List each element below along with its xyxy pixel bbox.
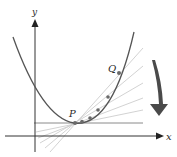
- curve-points: [73, 71, 121, 125]
- curve-point: [96, 108, 100, 112]
- point-q: [117, 71, 121, 75]
- y-axis-arrow-icon: [32, 19, 39, 27]
- point-p-label: P: [68, 108, 76, 119]
- curve-point: [106, 95, 110, 99]
- x-axis-arrow-icon: [156, 133, 164, 140]
- y-axis-label: y: [31, 7, 38, 17]
- curve-point: [88, 116, 92, 120]
- x-axis-label: x: [166, 131, 172, 142]
- down-arrow-icon: [150, 60, 168, 116]
- point-q-label: Q: [108, 63, 116, 74]
- x-axis: [5, 133, 164, 140]
- point-p: [73, 121, 77, 125]
- secant-tangent-diagram: y x P Q: [0, 0, 177, 157]
- curve-point: [80, 120, 84, 124]
